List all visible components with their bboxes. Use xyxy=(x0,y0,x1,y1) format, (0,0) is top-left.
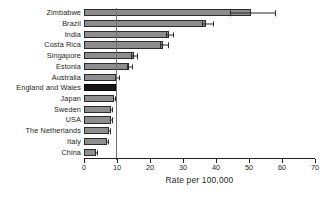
error-bar xyxy=(160,45,168,46)
error-bar-cap xyxy=(112,118,113,123)
category-label: Estonia xyxy=(56,63,81,71)
error-bar-cap xyxy=(173,32,174,37)
bar xyxy=(84,20,206,27)
bar xyxy=(84,95,114,102)
error-bar xyxy=(202,24,213,25)
error-bar-cap xyxy=(213,21,214,26)
category-label: India xyxy=(65,31,81,39)
x-tick-label: 0 xyxy=(82,164,86,172)
error-bar-cap xyxy=(127,64,128,69)
bar xyxy=(84,74,117,81)
error-bar-cap xyxy=(110,128,111,133)
bar-row: USA xyxy=(84,115,315,126)
category-label: China xyxy=(61,149,81,157)
x-tick-label: 20 xyxy=(146,164,154,172)
error-bar-cap xyxy=(119,75,120,80)
bar xyxy=(84,127,109,134)
bar xyxy=(84,31,169,38)
x-tick-label: 30 xyxy=(179,164,187,172)
category-label: Sweden xyxy=(54,106,81,114)
x-tick-label: 10 xyxy=(113,164,121,172)
bar-row: Australia xyxy=(84,72,315,83)
bar-row: Zimbabwe xyxy=(84,8,315,19)
x-tick-label: 70 xyxy=(311,164,319,172)
error-bar-cap xyxy=(137,53,138,58)
error-bar-cap xyxy=(166,32,167,37)
category-label: Italy xyxy=(67,138,81,146)
bar xyxy=(84,138,107,145)
x-tick-label: 40 xyxy=(212,164,220,172)
error-bar-cap xyxy=(113,96,114,101)
bar xyxy=(84,116,111,123)
bar-row: Estonia xyxy=(84,62,315,73)
category-label: USA xyxy=(66,116,81,124)
category-label: England and Wales xyxy=(16,84,81,92)
bar-row: The Netherlands xyxy=(84,126,315,137)
bar xyxy=(84,63,129,70)
error-bar-cap xyxy=(97,150,98,155)
category-label: Brazil xyxy=(62,20,81,28)
error-bar-cap xyxy=(112,107,113,112)
error-bar-cap xyxy=(160,43,161,48)
error-bar-cap xyxy=(230,11,231,16)
error-bar xyxy=(166,34,173,35)
bar-row: Japan xyxy=(84,94,315,105)
x-tick-label: 60 xyxy=(278,164,286,172)
reference-line xyxy=(116,8,117,160)
x-axis-title: Rate per 100,000 xyxy=(84,175,315,185)
bar-row: England and Wales xyxy=(84,83,315,94)
bar-row: Singapore xyxy=(84,51,315,62)
error-bar-cap xyxy=(132,64,133,69)
category-label: Australia xyxy=(52,74,81,82)
error-bar-cap xyxy=(202,21,203,26)
category-label: Japan xyxy=(61,95,81,103)
error-bar xyxy=(230,13,275,14)
bar xyxy=(84,41,163,48)
category-label: The Netherlands xyxy=(26,127,81,135)
error-bar-cap xyxy=(131,53,132,58)
bar-row: Italy xyxy=(84,137,315,148)
bar-row: Sweden xyxy=(84,104,315,115)
bar-row: Costa Rica xyxy=(84,40,315,51)
error-bar-cap xyxy=(108,139,109,144)
category-label: Costa Rica xyxy=(44,41,81,49)
plot-area: ZimbabweBrazilIndiaCosta RicaSingaporeEs… xyxy=(84,8,315,158)
error-bar-cap xyxy=(275,11,276,16)
bar-row: China xyxy=(84,147,315,158)
category-label: Zimbabwe xyxy=(47,9,81,17)
bar xyxy=(84,9,251,16)
bar-chart: ZimbabweBrazilIndiaCosta RicaSingaporeEs… xyxy=(0,0,331,197)
bar-row: Brazil xyxy=(84,19,315,30)
bar xyxy=(84,52,134,59)
bar xyxy=(84,84,116,91)
bar xyxy=(84,149,96,156)
error-bar-cap xyxy=(168,43,169,48)
x-tick-label: 50 xyxy=(245,164,253,172)
x-axis: 010203040506070 xyxy=(84,158,315,159)
bar xyxy=(84,106,111,113)
bar-row: India xyxy=(84,29,315,40)
category-label: Singapore xyxy=(47,52,81,60)
